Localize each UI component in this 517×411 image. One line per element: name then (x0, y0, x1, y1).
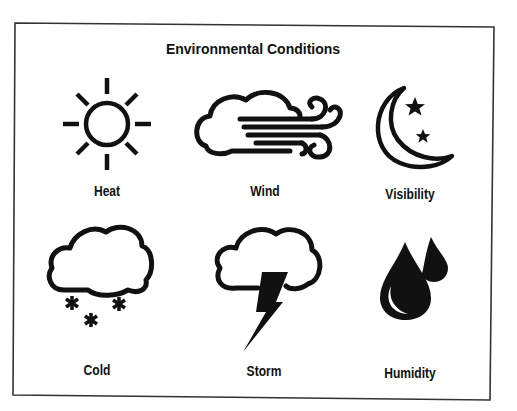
sun-icon (63, 78, 151, 170)
lightning-bolt-icon (243, 272, 288, 352)
wind-cloud-icon (197, 92, 341, 157)
label-visibility: Visibility (385, 186, 434, 202)
page-title: Environmental Conditions (166, 41, 340, 57)
label-storm: Storm (247, 363, 282, 379)
label-humidity: Humidity (384, 365, 436, 381)
snowflake-icon (66, 296, 125, 327)
label-cold: Cold (84, 362, 111, 378)
diagram-canvas (0, 0, 517, 411)
label-heat: Heat (94, 183, 120, 199)
star-small-icon (416, 129, 431, 143)
lightning-cloud-icon (217, 230, 320, 352)
snow-cloud-icon (49, 227, 151, 327)
moon-stars-icon (378, 88, 452, 167)
star-large-icon (405, 97, 425, 116)
frame-border (13, 23, 494, 400)
label-wind: Wind (250, 183, 279, 199)
water-drops-icon (380, 237, 448, 320)
